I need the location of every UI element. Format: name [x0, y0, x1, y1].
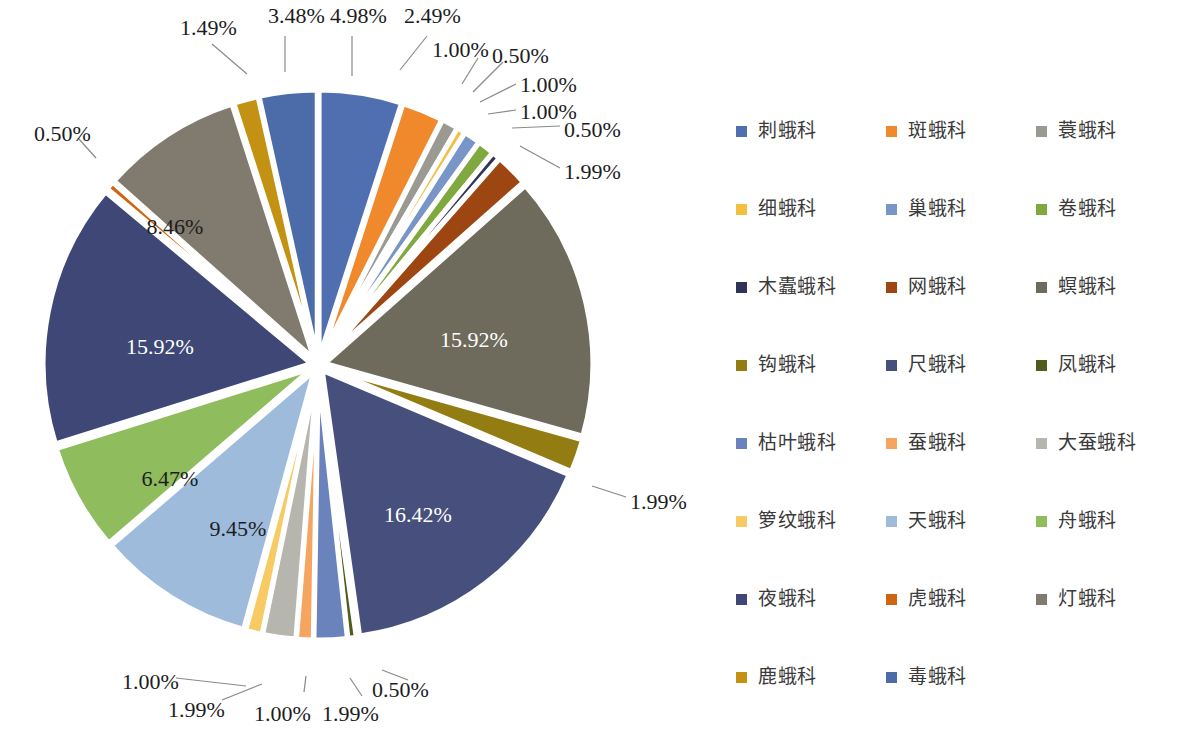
legend-swatch-icon: [736, 672, 747, 683]
slice-value-label: 6.47%: [142, 467, 199, 491]
legend-item-label: 斑蛾科: [908, 120, 967, 142]
legend-item-label: 箩纹蛾科: [758, 510, 836, 532]
legend-swatch-icon: [1036, 204, 1047, 215]
legend-item-毒蛾科[interactable]: 毒蛾科: [886, 664, 1036, 690]
legend-item-label: 天蛾科: [908, 510, 967, 532]
slice-value-label: 0.50%: [492, 44, 549, 68]
slice-value-label: 1.00%: [254, 702, 311, 726]
legend-swatch-icon: [1036, 438, 1047, 449]
legend-swatch-icon: [886, 282, 897, 293]
legend-swatch-icon: [736, 282, 747, 293]
legend-item-label: 鹿蛾科: [758, 666, 817, 688]
legend-item-label: 大蚕蛾科: [1058, 432, 1136, 454]
legend-swatch-icon: [736, 126, 747, 137]
legend-item-虎蛾科[interactable]: 虎蛾科: [886, 586, 1036, 612]
slice-value-label: 0.50%: [372, 678, 429, 702]
slice-value-label: 1.49%: [180, 16, 237, 40]
legend-item-label: 夜蛾科: [758, 588, 817, 610]
legend-item-螟蛾科[interactable]: 螟蛾科: [1036, 274, 1186, 300]
slice-value-label: 9.45%: [210, 517, 267, 541]
slice-value-label: 4.98%: [330, 4, 387, 28]
legend-item-网蛾科[interactable]: 网蛾科: [886, 274, 1036, 300]
leader-line: [222, 684, 262, 700]
legend-item-label: 蓑蛾科: [1058, 120, 1117, 142]
legend-swatch-icon: [886, 126, 897, 137]
legend-item-label: 凤蛾科: [1058, 354, 1117, 376]
legend-swatch-icon: [886, 360, 897, 371]
pie-chart-figure: 1.49%3.48%4.98%2.49%1.00%0.50%1.00%1.00%…: [0, 0, 1189, 731]
legend-row: 夜蛾科虎蛾科灯蛾科: [736, 586, 1186, 664]
legend-item-label: 枯叶蛾科: [758, 432, 836, 454]
legend-item-鹿蛾科[interactable]: 鹿蛾科: [736, 664, 886, 690]
legend-swatch-icon: [736, 594, 747, 605]
legend-item-天蛾科[interactable]: 天蛾科: [886, 508, 1036, 534]
legend-swatch-icon: [736, 204, 747, 215]
slice-value-label: 15.92%: [126, 335, 194, 359]
leader-line: [176, 678, 246, 686]
legend-item-斑蛾科[interactable]: 斑蛾科: [886, 118, 1036, 144]
legend-item-钩蛾科[interactable]: 钩蛾科: [736, 352, 886, 378]
leader-line: [400, 36, 427, 70]
slice-value-label: 15.92%: [440, 328, 508, 352]
leader-line: [304, 676, 306, 692]
legend-item-细蛾科[interactable]: 细蛾科: [736, 196, 886, 222]
legend-item-label: 巢蛾科: [908, 198, 967, 220]
slice-value-label: 0.50%: [34, 122, 91, 146]
leader-line: [350, 678, 362, 696]
slice-value-label: 8.46%: [147, 215, 204, 239]
legend-row: 钩蛾科尺蛾科凤蛾科: [736, 352, 1186, 430]
pie-svg: [0, 0, 700, 731]
legend-item-夜蛾科[interactable]: 夜蛾科: [736, 586, 886, 612]
slice-value-label: 1.99%: [630, 490, 687, 514]
legend-row: 箩纹蛾科天蛾科舟蛾科: [736, 508, 1186, 586]
legend-item-label: 细蛾科: [758, 198, 817, 220]
leader-line: [480, 84, 516, 102]
legend-item-箩纹蛾科[interactable]: 箩纹蛾科: [736, 508, 886, 534]
legend-item-label: 毒蛾科: [908, 666, 967, 688]
legend-item-label: 木蠹蛾科: [758, 276, 836, 298]
legend-item-巢蛾科[interactable]: 巢蛾科: [886, 196, 1036, 222]
legend-row: 鹿蛾科毒蛾科: [736, 664, 1186, 731]
legend-item-大蚕蛾科[interactable]: 大蚕蛾科: [1036, 430, 1186, 456]
legend-swatch-icon: [886, 516, 897, 527]
legend-item-label: 灯蛾科: [1058, 588, 1117, 610]
legend-item-蓑蛾科[interactable]: 蓑蛾科: [1036, 118, 1186, 144]
legend-item-凤蛾科[interactable]: 凤蛾科: [1036, 352, 1186, 378]
legend-item-蚕蛾科[interactable]: 蚕蛾科: [886, 430, 1036, 456]
legend-swatch-icon: [1036, 594, 1047, 605]
legend-item-灯蛾科[interactable]: 灯蛾科: [1036, 586, 1186, 612]
legend-row: 枯叶蛾科蚕蛾科大蚕蛾科: [736, 430, 1186, 508]
legend-swatch-icon: [1036, 126, 1047, 137]
slice-value-label: 16.42%: [384, 503, 452, 527]
legend-item-label: 虎蛾科: [908, 588, 967, 610]
legend-item-刺蛾科[interactable]: 刺蛾科: [736, 118, 886, 144]
legend-swatch-icon: [736, 360, 747, 371]
legend-item-枯叶蛾科[interactable]: 枯叶蛾科: [736, 430, 886, 456]
legend-swatch-icon: [886, 438, 897, 449]
slice-value-label: 1.00%: [520, 73, 577, 97]
slice-value-label: 1.99%: [168, 698, 225, 722]
legend-swatch-icon: [1036, 516, 1047, 527]
chart-legend: 刺蛾科斑蛾科蓑蛾科细蛾科巢蛾科卷蛾科木蠹蛾科网蛾科螟蛾科钩蛾科尺蛾科凤蛾科枯叶蛾…: [736, 118, 1186, 628]
slice-value-label: 1.99%: [564, 160, 621, 184]
pie-slices-group: [43, 90, 593, 640]
legend-item-label: 钩蛾科: [758, 354, 817, 376]
legend-item-label: 网蛾科: [908, 276, 967, 298]
slice-value-label: 0.50%: [564, 118, 621, 142]
legend-swatch-icon: [736, 516, 747, 527]
pie-plot-area: 1.49%3.48%4.98%2.49%1.00%0.50%1.00%1.00%…: [0, 0, 700, 731]
legend-item-木蠹蛾科[interactable]: 木蠹蛾科: [736, 274, 886, 300]
legend-item-尺蛾科[interactable]: 尺蛾科: [886, 352, 1036, 378]
leader-line: [488, 110, 516, 114]
legend-item-label: 卷蛾科: [1058, 198, 1117, 220]
legend-item-label: 蚕蛾科: [908, 432, 967, 454]
leader-line: [592, 486, 626, 497]
legend-item-卷蛾科[interactable]: 卷蛾科: [1036, 196, 1186, 222]
legend-item-label: 尺蛾科: [908, 354, 967, 376]
leader-line: [520, 146, 560, 168]
slice-value-label: 2.49%: [404, 4, 461, 28]
legend-swatch-icon: [1036, 282, 1047, 293]
legend-row: 细蛾科巢蛾科卷蛾科: [736, 196, 1186, 274]
legend-item-label: 舟蛾科: [1058, 510, 1117, 532]
legend-item-舟蛾科[interactable]: 舟蛾科: [1036, 508, 1186, 534]
